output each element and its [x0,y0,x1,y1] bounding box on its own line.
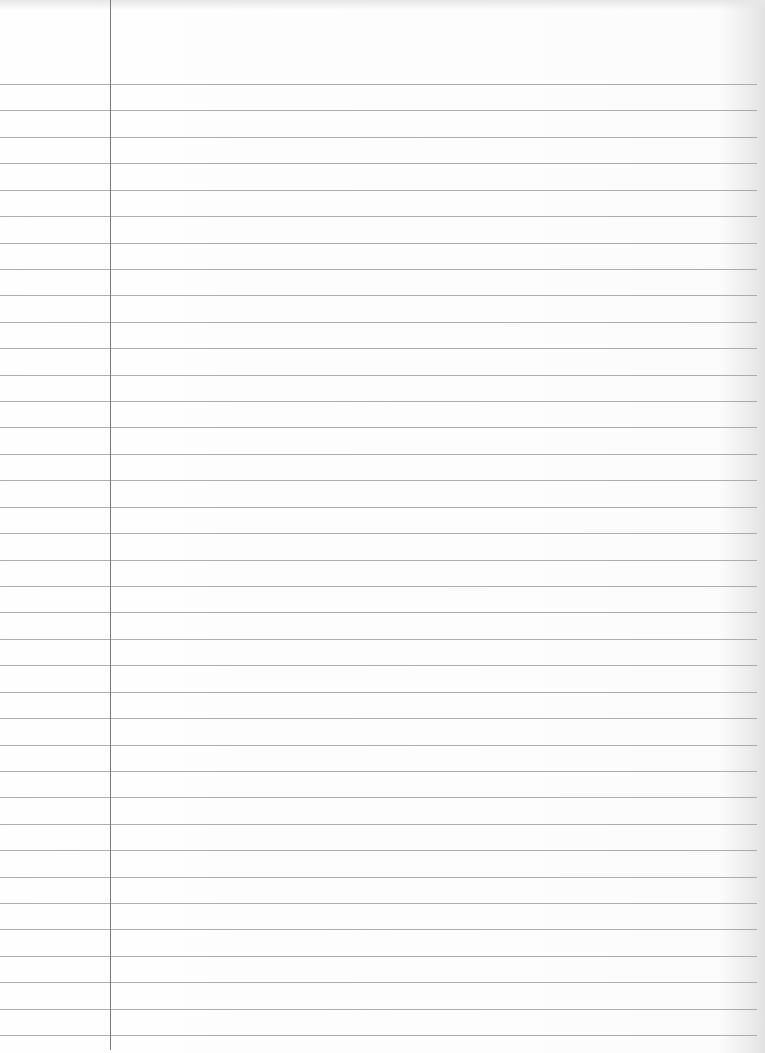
ruled-line [0,137,757,138]
ruled-line [0,216,757,217]
ruled-line [0,639,757,640]
ruled-line [0,797,757,798]
ruled-line [0,322,757,323]
ruled-line [0,348,757,349]
ruled-line [0,560,757,561]
ruled-line [0,1035,757,1036]
ruled-line [0,84,757,85]
ruled-line [0,375,757,376]
margin-line [110,0,111,1050]
ruled-line [0,454,757,455]
ruled-line [0,401,757,402]
lined-paper-sheet [0,0,765,1053]
ruled-line [0,533,757,534]
ruled-line [0,612,757,613]
ruled-line [0,771,757,772]
ruled-line [0,243,757,244]
ruled-lines [0,0,765,1053]
ruled-line [0,824,757,825]
ruled-line [0,745,757,746]
ruled-line [0,427,757,428]
ruled-line [0,692,757,693]
ruled-line [0,850,757,851]
ruled-line [0,718,757,719]
ruled-line [0,507,757,508]
ruled-line [0,586,757,587]
ruled-line [0,110,757,111]
ruled-line [0,163,757,164]
ruled-line [0,1009,757,1010]
ruled-line [0,903,757,904]
ruled-line [0,480,757,481]
ruled-line [0,956,757,957]
ruled-line [0,982,757,983]
ruled-line [0,877,757,878]
ruled-line [0,295,757,296]
ruled-line [0,190,757,191]
ruled-line [0,665,757,666]
ruled-line [0,269,757,270]
ruled-line [0,929,757,930]
